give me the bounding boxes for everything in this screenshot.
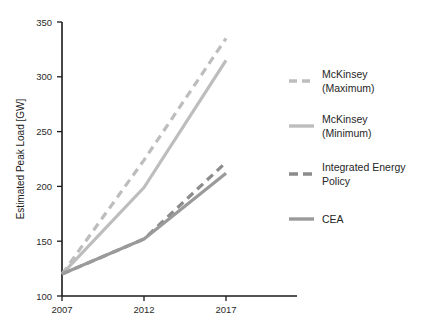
y-tick-label: 100 — [36, 291, 52, 302]
legend-label-integrated-energy-policy-line2: Policy — [322, 175, 351, 187]
y-tick-label: 350 — [36, 17, 52, 28]
legend-label-cea-line1: CEA — [322, 213, 344, 225]
y-tick-label: 250 — [36, 126, 52, 137]
y-tick-label: 300 — [36, 71, 52, 82]
chart-figure: 350 300 250 200 150 100 Estimated Peak L… — [0, 0, 423, 332]
chart-canvas: 350 300 250 200 150 100 Estimated Peak L… — [0, 0, 423, 332]
x-tick-label: 2007 — [51, 304, 72, 315]
legend-label-mckinsey-minimum-line2: (Minimum) — [322, 127, 372, 139]
y-tick-label: 150 — [36, 236, 52, 247]
legend-label-mckinsey-maximum-line1: McKinsey — [322, 68, 368, 80]
legend-label-mckinsey-maximum-line2: (Maximum) — [322, 82, 375, 94]
y-tick-label: 200 — [36, 181, 52, 192]
x-tick-label: 2017 — [215, 304, 236, 315]
legend-label-mckinsey-minimum-line1: McKinsey — [322, 113, 368, 125]
x-tick-label: 2012 — [133, 304, 154, 315]
y-axis-title: Estimated Peak Load [GW] — [15, 98, 26, 219]
legend-label-integrated-energy-policy-line1: Integrated Energy — [322, 161, 406, 173]
